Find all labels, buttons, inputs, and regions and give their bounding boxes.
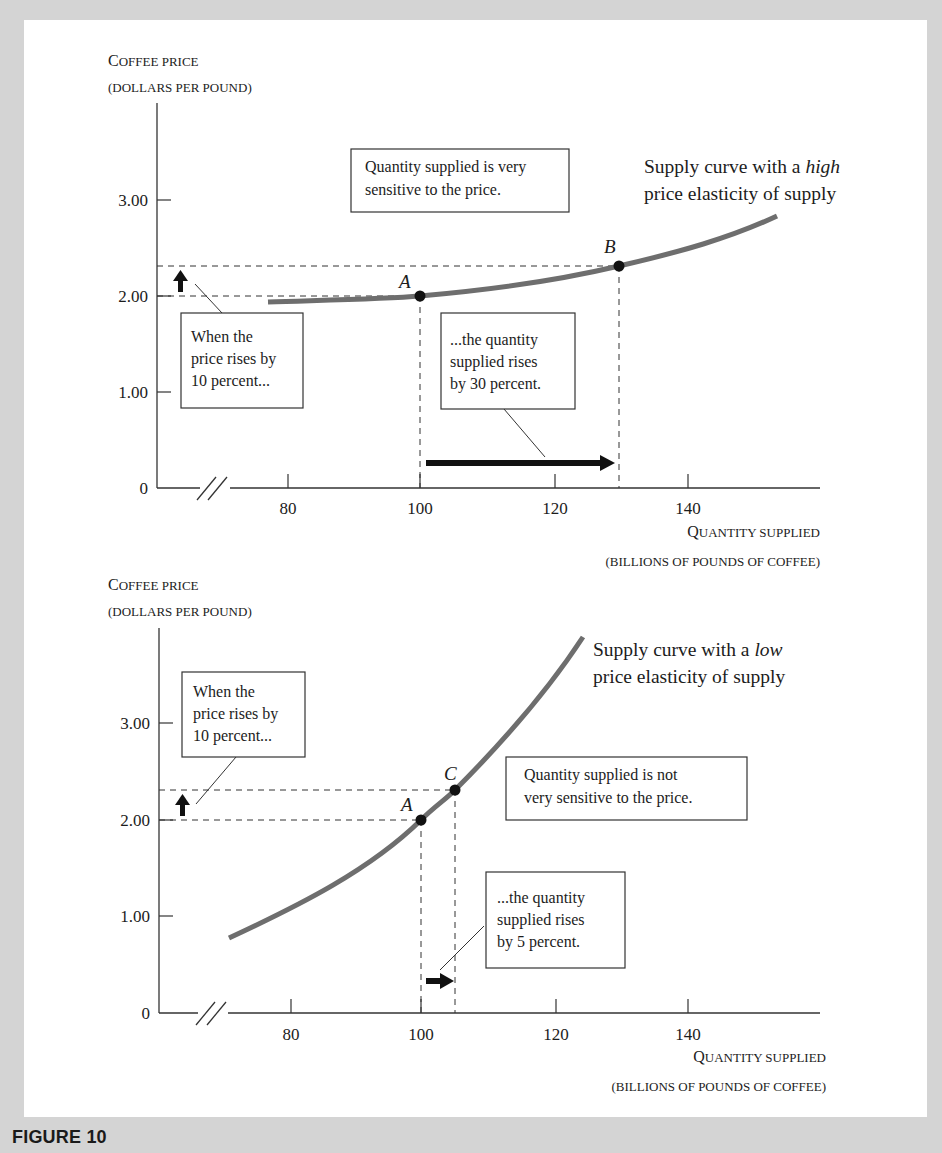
bottom-quantity-box: ...the quantity supplied rises by 5 perc… (486, 872, 625, 968)
bottom-x-tick-140: 140 (675, 1025, 701, 1044)
svg-text:...the quantity: ...the quantity (497, 889, 585, 907)
bottom-point-c (450, 785, 461, 796)
svg-text:price elasticity of supply: price elasticity of supply (644, 183, 836, 204)
svg-text:Supply curve with a high: Supply curve with a high (644, 156, 840, 177)
top-y-tick-3: 3.00 (118, 191, 148, 210)
top-note-box: Quantity supplied is very sensitive to t… (351, 149, 569, 212)
figure-caption: FIGURE 10 (12, 1127, 107, 1148)
svg-text:supplied rises: supplied rises (450, 353, 538, 371)
svg-text:When the: When the (191, 328, 253, 345)
top-axis-break-icon (197, 477, 230, 500)
bottom-curve-label: Supply curve with a low price elasticity… (593, 639, 785, 687)
top-point-a-label: A (397, 271, 411, 292)
bottom-note-box: Quantity supplied is not very sensitive … (506, 757, 747, 820)
bottom-point-a-label: A (399, 794, 413, 815)
svg-text:by 5 percent.: by 5 percent. (497, 933, 580, 951)
figure-canvas: COFFEE PRICE (DOLLARS PER POUND) 3.00 2.… (0, 0, 942, 1153)
bottom-y-tick-3: 3.00 (120, 714, 150, 733)
svg-text:...the quantity: ...the quantity (450, 331, 538, 349)
bottom-point-a (416, 815, 427, 826)
top-quantity-box: ...the quantity supplied rises by 30 per… (441, 313, 575, 409)
top-x-tick-140: 140 (675, 499, 701, 518)
bottom-x-tick-80: 80 (283, 1025, 300, 1044)
top-point-b-label: B (604, 236, 616, 257)
top-y-tick-2: 2.00 (118, 287, 148, 306)
bottom-x-tick-120: 120 (543, 1025, 569, 1044)
bottom-price-up-arrow-icon (175, 794, 190, 816)
bottom-y-tick-1: 1.00 (120, 907, 150, 926)
bottom-price-box-pointer (196, 757, 236, 804)
top-x-tick-80: 80 (280, 499, 297, 518)
top-chart: COFFEE PRICE (DOLLARS PER POUND) 3.00 2.… (108, 52, 840, 569)
top-x-tick-120: 120 (542, 499, 568, 518)
svg-text:10 percent...: 10 percent... (191, 372, 270, 390)
svg-text:When the: When the (193, 683, 255, 700)
bottom-quantity-right-arrow-icon (426, 973, 454, 989)
bottom-y-axis-subtitle: (DOLLARS PER POUND) (108, 604, 252, 619)
top-point-b (614, 261, 625, 272)
bottom-quantity-box-pointer (440, 926, 484, 970)
bottom-chart: COFFEE PRICE (DOLLARS PER POUND) 3.00 2.… (108, 576, 826, 1094)
top-point-a (415, 291, 426, 302)
top-x-tick-100: 100 (407, 499, 433, 518)
top-y-axis-title: COFFEE PRICE (108, 52, 199, 69)
svg-text:very sensitive to the price.: very sensitive to the price. (524, 789, 692, 807)
svg-text:Quantity supplied is not: Quantity supplied is not (524, 766, 678, 784)
svg-text:price elasticity of supply: price elasticity of supply (593, 666, 785, 687)
top-x-axis-title: QUANTITY SUPPLIED (687, 523, 820, 540)
bottom-x-tick-100: 100 (408, 1025, 434, 1044)
top-price-box-pointer (195, 284, 222, 313)
top-curve-label: Supply curve with a high price elasticit… (644, 156, 840, 204)
svg-text:10 percent...: 10 percent... (193, 727, 272, 745)
top-y-tick-1: 1.00 (118, 383, 148, 402)
top-price-up-arrow-icon (173, 270, 188, 292)
svg-text:Supply curve with a low: Supply curve with a low (593, 639, 783, 660)
bottom-x-axis-subtitle: (BILLIONS OF POUNDS OF COFFEE) (611, 1079, 826, 1094)
top-y-tick-0: 0 (140, 479, 149, 498)
top-y-axis-subtitle: (DOLLARS PER POUND) (108, 80, 252, 95)
bottom-price-box: When the price rises by 10 percent... (182, 672, 305, 757)
svg-text:sensitive to the price.: sensitive to the price. (365, 181, 501, 199)
bottom-axis-break-icon (196, 1002, 228, 1025)
bottom-y-tick-2: 2.00 (120, 811, 150, 830)
svg-text:price rises by: price rises by (191, 350, 276, 368)
svg-text:by 30 percent.: by 30 percent. (450, 375, 541, 393)
bottom-point-c-label: C (444, 763, 457, 784)
top-x-axis-subtitle: (BILLIONS OF POUNDS OF COFFEE) (605, 554, 820, 569)
top-price-box: When the price rises by 10 percent... (181, 313, 303, 408)
bottom-y-tick-0: 0 (142, 1004, 151, 1023)
top-supply-curve (268, 216, 777, 302)
top-quantity-right-arrow-icon (426, 455, 615, 471)
svg-text:supplied rises: supplied rises (497, 911, 585, 929)
top-quantity-box-pointer (504, 409, 545, 457)
svg-text:Quantity supplied is very: Quantity supplied is very (365, 158, 526, 176)
bottom-y-axis-title: COFFEE PRICE (108, 576, 199, 593)
svg-text:price rises by: price rises by (193, 705, 278, 723)
bottom-x-axis-title: QUANTITY SUPPLIED (693, 1048, 826, 1065)
